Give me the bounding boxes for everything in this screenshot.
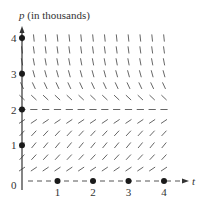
- slope-segment: [44, 82, 47, 89]
- slope-segment: [103, 82, 106, 89]
- slope-segment: [116, 58, 117, 65]
- slope-segment: [79, 131, 84, 136]
- slope-segment: [67, 131, 72, 136]
- slope-segment: [93, 34, 94, 41]
- slope-segment: [80, 82, 83, 89]
- slope-segment: [163, 58, 164, 65]
- slope-segment: [57, 46, 58, 53]
- slope-segment: [90, 167, 96, 171]
- slope-segment: [91, 82, 94, 89]
- y-axis-arrowhead-icon: [20, 26, 25, 33]
- slope-segment: [114, 155, 119, 160]
- slope-segment: [55, 131, 60, 136]
- slope-segment: [116, 34, 117, 41]
- slope-segment: [126, 155, 131, 160]
- slope-segment: [43, 95, 48, 100]
- slope-segment: [31, 155, 36, 160]
- slope-segment: [80, 70, 82, 77]
- slope-segment: [43, 155, 48, 160]
- slope-segment: [162, 155, 167, 160]
- y-tick-dot: [19, 107, 25, 113]
- slope-segment: [104, 58, 105, 65]
- slope-segment: [150, 95, 155, 100]
- slope-segment: [31, 95, 36, 100]
- slope-segment: [140, 34, 141, 41]
- slope-segment: [114, 131, 119, 136]
- slope-segment: [68, 82, 71, 89]
- slope-segment: [55, 119, 61, 123]
- slope-segment: [138, 155, 143, 160]
- slope-segment: [81, 58, 82, 65]
- slope-segment: [161, 95, 166, 100]
- slope-segment: [152, 58, 153, 65]
- slope-segment: [102, 155, 107, 160]
- slope-segment: [43, 119, 49, 123]
- slope-segment: [66, 167, 72, 171]
- slope-segment: [162, 142, 167, 148]
- slope-segment: [102, 119, 108, 123]
- slope-segment: [161, 167, 167, 171]
- slope-segment: [31, 119, 37, 123]
- x-tick-label: 4: [161, 186, 167, 198]
- slope-segment: [162, 131, 167, 136]
- slope-segment: [163, 70, 165, 77]
- slope-segment: [33, 70, 35, 77]
- slope-segment: [91, 131, 96, 136]
- slope-segment: [79, 142, 84, 148]
- slope-segment: [45, 46, 46, 53]
- slope-segment: [139, 82, 142, 89]
- slope-segment: [103, 142, 108, 148]
- slope-segment: [93, 46, 94, 53]
- slope-segment: [33, 34, 34, 41]
- slope-segment: [164, 46, 165, 53]
- slope-segment: [128, 70, 130, 77]
- slope-segment: [69, 58, 70, 65]
- slope-segment: [43, 131, 48, 136]
- slope-segment: [104, 46, 105, 53]
- slope-segment: [33, 58, 34, 65]
- slope-segment: [90, 95, 95, 100]
- slope-segment: [137, 167, 143, 171]
- slope-segments: [18, 34, 167, 171]
- slope-segment: [138, 95, 143, 100]
- y-tick-dot: [19, 71, 25, 77]
- slope-segment: [137, 119, 143, 123]
- slope-segment: [152, 34, 153, 41]
- slope-segment: [79, 155, 84, 160]
- slope-segment: [55, 167, 61, 171]
- slope-segment: [151, 82, 154, 89]
- x-tick-dot: [55, 178, 61, 184]
- slope-segment: [115, 82, 118, 89]
- slope-segment: [78, 167, 84, 171]
- slope-segment: [116, 70, 118, 77]
- slope-segment: [66, 119, 72, 123]
- x-tick-dot: [161, 178, 167, 184]
- slope-segment: [149, 119, 155, 123]
- slope-segment: [31, 131, 36, 136]
- y-axis-tick-labels: 01234: [11, 32, 17, 191]
- slope-segment: [33, 46, 34, 53]
- slope-segment: [55, 142, 60, 148]
- y-tick-label: 4: [11, 32, 17, 44]
- x-tick-label: 3: [126, 186, 132, 198]
- y-tick-label: 2: [11, 104, 17, 116]
- slope-segment: [56, 82, 59, 89]
- slope-segment: [149, 167, 155, 171]
- slope-segment: [114, 119, 120, 123]
- slope-segment: [150, 155, 155, 160]
- slope-segment: [140, 46, 141, 53]
- slope-segment: [128, 34, 129, 41]
- x-axis-label: t: [192, 175, 196, 187]
- y-axis-title: p (in thousands): [18, 9, 90, 22]
- slope-segment: [102, 95, 107, 100]
- y-tick-label: 1: [11, 139, 17, 151]
- slope-segment: [32, 82, 35, 89]
- slope-segment: [150, 142, 155, 148]
- slope-segment: [45, 34, 46, 41]
- slope-segment: [162, 82, 165, 89]
- slope-segment: [43, 142, 48, 148]
- slope-segment: [90, 119, 96, 123]
- y-axis-unit: (in thousands): [25, 9, 91, 22]
- slope-segment: [114, 167, 120, 171]
- x-tick-dot: [126, 178, 132, 184]
